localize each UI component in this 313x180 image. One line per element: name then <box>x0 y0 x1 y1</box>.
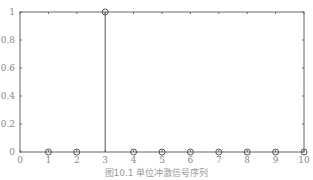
x-tick-label: 9 <box>273 155 279 165</box>
x-tick-label: 4 <box>131 155 137 165</box>
x-tick-label: 2 <box>74 155 80 165</box>
x-tick-label: 10 <box>298 155 310 165</box>
y-tick-label: 1 <box>9 7 15 17</box>
stem-plot: 01234567891000.20.40.60.81 <box>0 0 313 180</box>
x-tick-label: 3 <box>102 155 108 165</box>
y-tick-label: 0.2 <box>1 119 15 129</box>
x-tick-label: 7 <box>216 155 222 165</box>
y-tick-label: 0.8 <box>1 35 16 45</box>
y-tick-label: 0.6 <box>1 63 16 73</box>
x-tick-label: 8 <box>244 155 250 165</box>
axes-box <box>20 12 304 152</box>
x-tick-label: 0 <box>17 155 23 165</box>
x-tick-label: 6 <box>188 155 194 165</box>
figure-caption: 图10.1 单位冲激信号序列 <box>0 166 313 179</box>
x-tick-label: 1 <box>46 155 52 165</box>
y-tick-label: 0 <box>9 147 15 157</box>
x-tick-label: 5 <box>159 155 165 165</box>
y-tick-label: 0.4 <box>1 91 16 101</box>
